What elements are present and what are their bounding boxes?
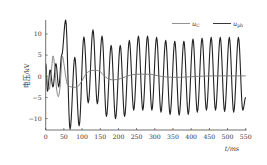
x-tick-label: 300 bbox=[149, 133, 161, 140]
y-tick-label: 0 bbox=[38, 73, 42, 80]
x-tick-label: 100 bbox=[76, 133, 88, 140]
voltage-chart: 050100150200250300350400450500550 −10−50… bbox=[0, 0, 267, 165]
x-tick-label: 450 bbox=[203, 133, 215, 140]
legend-label-uph: uph bbox=[233, 20, 243, 29]
x-axis-title: t/ms bbox=[225, 145, 240, 153]
x-tick-label: 50 bbox=[60, 133, 68, 140]
x-tick-label: 200 bbox=[113, 133, 125, 140]
y-tick-label: 5 bbox=[38, 51, 42, 58]
legend: uC uph bbox=[172, 20, 243, 29]
y-tick-label: −5 bbox=[33, 94, 42, 101]
x-tick-label: 150 bbox=[94, 133, 106, 140]
y-tick-label: −10 bbox=[29, 115, 42, 122]
x-tick-label: 250 bbox=[131, 133, 143, 140]
x-tick-label: 350 bbox=[167, 133, 179, 140]
y-axis: −10−50510 bbox=[29, 20, 48, 130]
y-tick-label: 10 bbox=[34, 30, 42, 37]
x-tick-label: 550 bbox=[240, 133, 252, 140]
legend-label-uc: uC bbox=[192, 20, 200, 29]
plot-area bbox=[46, 20, 246, 129]
x-tick-label: 0 bbox=[44, 133, 48, 140]
y-axis-title: 电压/kV bbox=[22, 63, 31, 88]
x-tick-label: 500 bbox=[222, 133, 234, 140]
x-axis: 050100150200250300350400450500550 bbox=[44, 128, 252, 140]
x-tick-label: 400 bbox=[185, 133, 197, 140]
